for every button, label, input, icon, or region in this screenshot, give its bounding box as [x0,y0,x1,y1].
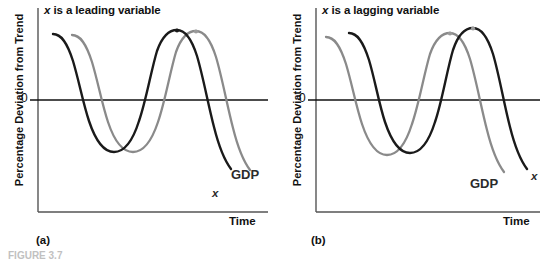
panel-a-letter: (a) [36,234,50,246]
panel-b: x is a lagging variable Percentage Devia… [278,0,555,258]
curve-label-gdp: GDP [231,167,259,182]
peak-marker-x [471,26,475,30]
panel-a: x is a leading variable Percentage Devia… [0,0,278,258]
figure-caption: FIGURE 3.7 [8,250,62,261]
panel-b-title-rest: is a lagging variable [328,4,439,16]
panel-b-letter: (b) [311,234,326,246]
curve-x [349,28,527,169]
panel-a-title-rest: is a leading variable [50,4,160,16]
curve-label-x: x [212,187,218,199]
panel-a-title: x is a leading variable [44,4,161,16]
peak-marker-gdp [194,29,198,33]
y-axis-zero-tick: 0 [299,91,306,105]
y-axis-zero-tick: 0 [21,91,28,105]
peak-marker-x [175,28,179,32]
curve-label-x: x [531,170,537,182]
x-axis-label: Time [229,215,256,227]
panel-b-title: x is a lagging variable [322,4,439,16]
x-axis-label: Time [503,215,530,227]
curve-label-gdp: GDP [470,176,498,191]
peak-marker-gdp [448,31,452,35]
